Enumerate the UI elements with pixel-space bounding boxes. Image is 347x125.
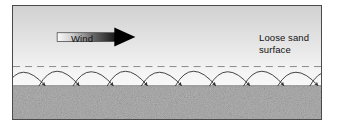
- loose-sand-surface-label-line1: Loose sand: [259, 32, 309, 43]
- figure-canvas: Wind Loose sandsurface: [0, 0, 347, 125]
- sand-surface-line: [13, 85, 321, 86]
- saltation-scene: [13, 6, 321, 119]
- sand-layer: [13, 85, 321, 119]
- loose-sand-surface-label-line2: surface: [259, 44, 291, 55]
- wind-label: Wind: [71, 33, 93, 45]
- loose-sand-surface-label: Loose sandsurface: [259, 32, 309, 55]
- diagram-frame: Wind Loose sandsurface: [12, 5, 322, 120]
